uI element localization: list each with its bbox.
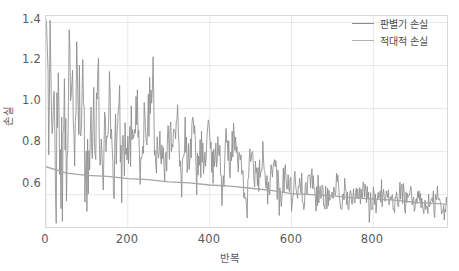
y-tick-label-0.8: 0.8 bbox=[1, 134, 41, 148]
x-tick-label-600: 600 bbox=[266, 232, 316, 246]
chart-figure: 1.4 1.2 1.0 0.8 0.6 0 200 400 600 800 반복… bbox=[0, 0, 459, 271]
y-tick-label-1.2: 1.2 bbox=[1, 52, 41, 66]
legend-label-adversarial-loss: 적대적 손실 bbox=[380, 33, 428, 48]
legend-label-discriminator-loss: 판별기 손실 bbox=[380, 16, 428, 31]
legend: 판별기 손실 적대적 손실 bbox=[352, 14, 454, 50]
legend-swatch-discriminator-loss bbox=[352, 23, 374, 24]
x-axis-label: 반복 bbox=[0, 250, 459, 265]
y-tick-label-1.4: 1.4 bbox=[1, 12, 41, 26]
y-axis-label: 손실 bbox=[0, 96, 15, 136]
legend-item-discriminator-loss[interactable]: 판별기 손실 bbox=[352, 16, 454, 31]
y-tick-label-0.6: 0.6 bbox=[1, 176, 41, 190]
line-discriminator-loss bbox=[46, 20, 447, 223]
x-tick-label-800: 800 bbox=[347, 232, 397, 246]
legend-item-adversarial-loss[interactable]: 적대적 손실 bbox=[352, 33, 454, 48]
x-tick-label-400: 400 bbox=[184, 232, 234, 246]
x-tick-label-200: 200 bbox=[102, 232, 152, 246]
line-adversarial-loss bbox=[46, 167, 447, 205]
x-tick-label-0: 0 bbox=[20, 232, 70, 246]
legend-swatch-adversarial-loss bbox=[352, 40, 374, 41]
data-series-group bbox=[46, 20, 447, 223]
